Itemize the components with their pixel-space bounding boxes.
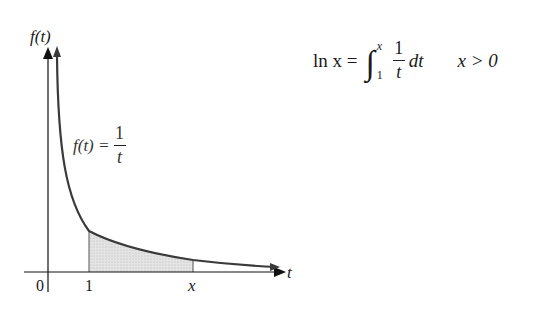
curve-label-fraction: 1 t	[114, 123, 126, 168]
tick-label-x: x	[188, 276, 196, 296]
differential: dt	[409, 50, 424, 72]
x-axis-label: t	[287, 263, 292, 283]
curve-label: f(t) = 1 t	[73, 123, 130, 168]
integrand-numerator: 1	[394, 38, 403, 59]
integrand-denominator: t	[396, 62, 401, 83]
integrand-fraction: 1 t	[393, 38, 405, 83]
tick-label-one: 1	[85, 277, 93, 295]
integral-limits: x 1	[377, 39, 383, 83]
integral-upper-limit: x	[377, 39, 383, 54]
formula-lhs: ln x =	[313, 50, 358, 72]
fraction-bar	[114, 145, 126, 146]
integral-sign-icon: ∫	[366, 46, 375, 80]
integral-lower-limit: 1	[377, 68, 383, 83]
y-axis-label: f(t)	[30, 27, 51, 47]
curve-arrow-icon	[53, 46, 61, 57]
curve-label-numerator: 1	[115, 123, 124, 144]
domain-condition: x > 0	[458, 50, 498, 72]
fraction-bar	[393, 60, 405, 61]
curve-label-denominator: t	[117, 147, 122, 168]
ln-integral-formula: ln x = ∫ x 1 1 t dt x > 0	[313, 38, 498, 83]
curve-label-lhs: f(t) =	[73, 136, 110, 156]
origin-label: 0	[36, 277, 44, 295]
y-axis-arrow-icon	[43, 47, 53, 59]
